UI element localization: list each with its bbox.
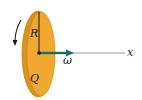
rotating-disk-diagram: R Q ω x [0, 0, 142, 100]
rotation-arrowhead-icon [13, 40, 18, 46]
rotation-arc [15, 20, 21, 42]
omega-label: ω [63, 54, 72, 67]
axis-label: x [127, 46, 134, 59]
center-point [37, 51, 41, 55]
radius-label: R [29, 27, 38, 40]
charge-label: Q [30, 72, 39, 85]
